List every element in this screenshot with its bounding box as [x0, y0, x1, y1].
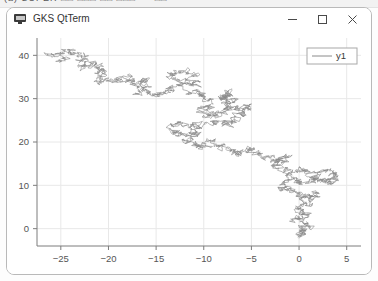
screen-root: (a) SUPER □□ □□□ □□ □□□ • • □□ GKS QtTer… — [0, 0, 378, 281]
plot-area: −25−20−15−10−505010203040y1 — [7, 30, 371, 275]
window-controls — [277, 8, 371, 30]
window-title: GKS QtTerm — [33, 14, 90, 24]
x-axis-tick-label: 0 — [296, 253, 301, 264]
title-bar[interactable]: GKS QtTerm — [7, 8, 371, 30]
close-icon[interactable] — [337, 8, 367, 30]
y-axis-tick-label: 0 — [24, 223, 29, 234]
y-axis-tick-label: 30 — [18, 93, 29, 104]
y-axis-tick-label: 40 — [18, 50, 29, 61]
x-axis-tick-label: −20 — [100, 253, 116, 264]
maximize-icon[interactable] — [307, 8, 337, 30]
x-axis-tick-label: −25 — [53, 253, 69, 264]
series-line-y1 — [44, 49, 339, 238]
y-axis-tick-label: 10 — [18, 180, 29, 191]
minimize-icon[interactable] — [277, 8, 307, 30]
application-window: GKS QtTerm −25−20−15−10−505010203040y1 — [6, 7, 372, 275]
x-axis-tick-label: −5 — [246, 253, 257, 264]
cut-off-toolbar-text: (a) SUPER □□ □□□ □□ □□□ • • □□ — [4, 0, 168, 3]
x-axis-tick-label: −15 — [148, 253, 164, 264]
x-axis-tick-label: −10 — [196, 253, 212, 264]
random-walk-chart: −25−20−15−10−505010203040y1 — [7, 30, 372, 275]
chart-legend: y1 — [307, 48, 357, 64]
x-axis-tick-label: 5 — [344, 253, 349, 264]
y-axis-tick-label: 20 — [18, 136, 29, 147]
monitor-icon — [14, 14, 26, 24]
legend-label: y1 — [336, 50, 346, 61]
